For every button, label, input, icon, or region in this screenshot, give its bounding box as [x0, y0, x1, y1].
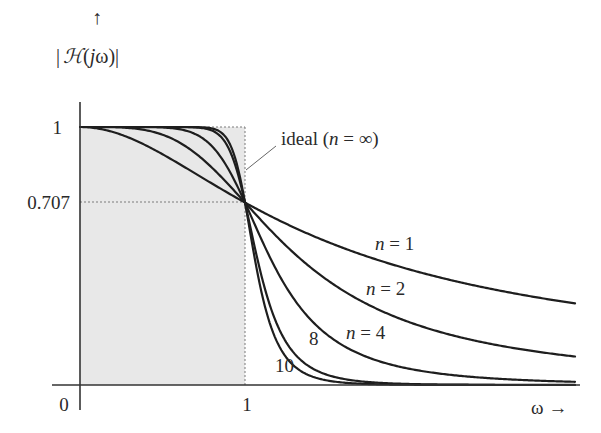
y-axis-arrow: ↑	[92, 6, 102, 28]
x-tick-0: 0	[59, 394, 69, 415]
curve-label-n8: 8	[309, 328, 319, 349]
x-tick-1: 1	[242, 394, 252, 415]
y-tick-1: 1	[53, 117, 63, 138]
y-axis-title: ↑ |ℋ(jω)|	[56, 6, 119, 68]
curve-label-n10: 10	[275, 355, 294, 376]
x-axis-label: ω→	[531, 397, 568, 418]
y-axis-label: |ℋ(jω)|	[56, 45, 119, 68]
ideal-leader-line	[246, 146, 276, 170]
y-tick-0707: 0.707	[27, 192, 70, 213]
ideal-annotation: ideal (n = ∞)	[281, 128, 379, 150]
ideal-shaded-region	[80, 127, 245, 385]
butterworth-magnitude-chart: ↑ |ℋ(jω)| 1 0.707 0 1 ω→ ideal (n = ∞) n…	[0, 0, 601, 433]
curve-label-n1: n = 1	[375, 233, 414, 254]
curve-label-n2: n = 2	[366, 278, 405, 299]
curve-label-n4: n = 4	[346, 322, 386, 343]
